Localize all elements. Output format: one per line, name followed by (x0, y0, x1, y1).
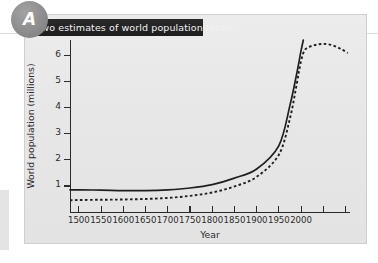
plot-area: 123456 150015501600165017001750180018501… (0, 0, 378, 263)
chart-title: Two estimates of world population totals (30, 22, 233, 33)
chart-curves (0, 0, 378, 263)
series-dashed-estimate (70, 44, 348, 200)
chart-title-banner: Two estimates of world population totals (30, 19, 203, 36)
series-solid-estimate (70, 40, 303, 191)
figure-badge-label: A (23, 11, 36, 29)
figure-badge-a: A (11, 1, 48, 38)
